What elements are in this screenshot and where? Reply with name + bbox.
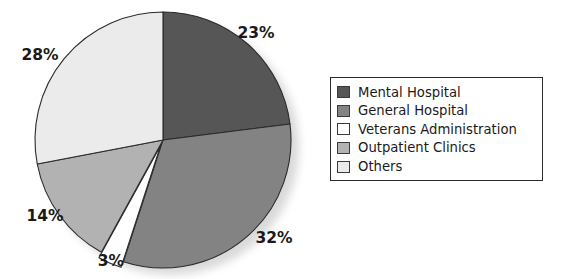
legend-item-label: Others	[358, 160, 402, 173]
slice-percent-label: 14%	[26, 207, 64, 225]
legend-color-swatch	[337, 161, 350, 173]
slice-percent-label: 3%	[98, 252, 125, 270]
legend-item[interactable]: Veterans Administration	[337, 120, 538, 139]
legend-color-swatch	[337, 123, 350, 135]
pie-slice[interactable]	[35, 12, 163, 164]
pie-slices	[35, 12, 291, 268]
legend-item[interactable]: General Hospital	[337, 102, 538, 121]
legend-color-swatch	[337, 142, 350, 154]
legend-color-swatch	[337, 105, 350, 117]
legend-item-label: Veterans Administration	[358, 123, 517, 136]
legend-item-list: Mental HospitalGeneral HospitalVeterans …	[337, 83, 538, 176]
legend-color-swatch	[337, 86, 350, 98]
legend-item-label: Mental Hospital	[358, 86, 461, 99]
slice-percent-label: 23%	[237, 24, 275, 42]
legend-item[interactable]: Outpatient Clinics	[337, 139, 538, 158]
slice-percent-label: 28%	[21, 46, 59, 64]
chart-legend: Mental HospitalGeneral HospitalVeterans …	[330, 77, 543, 181]
legend-item[interactable]: Others	[337, 157, 538, 176]
legend-item-label: General Hospital	[358, 104, 468, 117]
slice-percent-label: 32%	[255, 229, 293, 247]
legend-item-label: Outpatient Clinics	[358, 141, 476, 154]
legend-item[interactable]: Mental Hospital	[337, 83, 538, 102]
